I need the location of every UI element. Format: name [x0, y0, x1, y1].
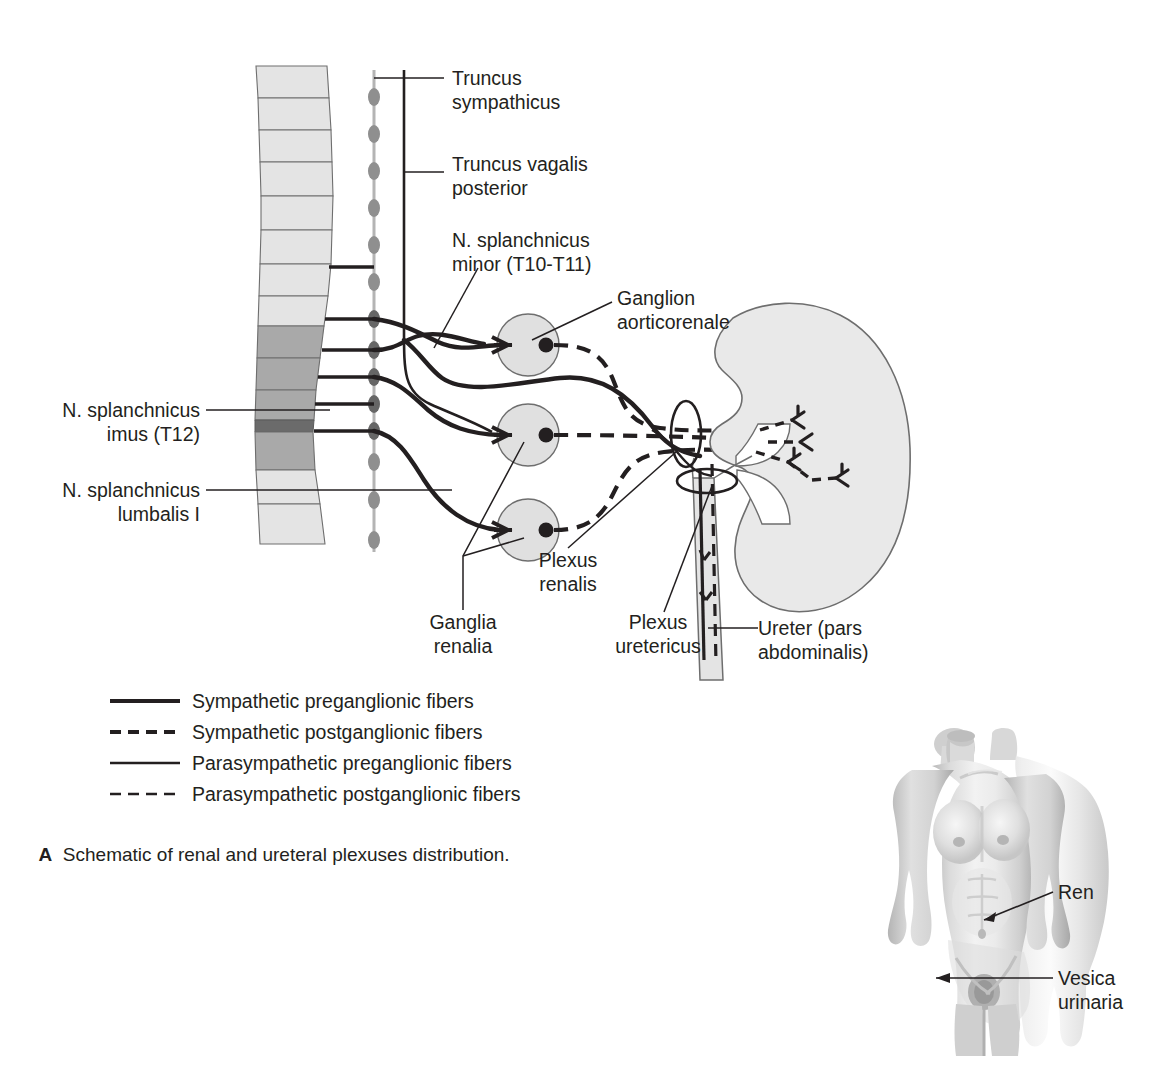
label-vesica-urinaria: Vesica urinaria [1058, 966, 1123, 1014]
label-ren: Ren [1058, 880, 1094, 904]
body-figure-leaders [0, 0, 1167, 1081]
